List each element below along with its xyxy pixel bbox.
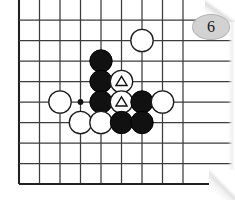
black-stone[interactable] [90, 70, 112, 92]
black-stone[interactable] [90, 91, 112, 113]
black-stone[interactable] [131, 111, 153, 133]
white-stone[interactable] [151, 91, 173, 113]
white-stone[interactable] [49, 91, 71, 113]
black-stone[interactable] [90, 50, 112, 72]
black-stone[interactable] [110, 111, 132, 133]
stone-black[interactable] [90, 70, 112, 92]
stone-black[interactable] [90, 50, 112, 72]
move-number-badge: 6 [192, 14, 230, 40]
stone-white[interactable] [49, 91, 71, 113]
white-stone[interactable] [110, 91, 132, 113]
stone-black[interactable] [90, 91, 112, 113]
white-stone[interactable] [69, 111, 91, 133]
stone-white[interactable] [151, 91, 173, 113]
stone-white[interactable] [90, 111, 112, 133]
stone-black[interactable] [110, 111, 132, 133]
stone-white[interactable] [69, 111, 91, 133]
go-diagram-figure: 6 [0, 0, 235, 200]
star-points [78, 99, 84, 105]
white-stone[interactable] [90, 111, 112, 133]
white-stone[interactable] [131, 29, 153, 51]
badge-number-text: 6 [192, 14, 230, 40]
stone-white[interactable] [110, 70, 132, 92]
star-point [78, 99, 84, 105]
stone-white[interactable] [110, 91, 132, 113]
stone-black[interactable] [131, 111, 153, 133]
stone-white[interactable] [131, 29, 153, 51]
black-stone[interactable] [131, 91, 153, 113]
white-stone[interactable] [110, 70, 132, 92]
stone-black[interactable] [131, 91, 153, 113]
